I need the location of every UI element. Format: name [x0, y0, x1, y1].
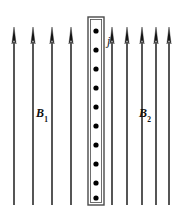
current-sheet	[88, 17, 104, 205]
current-out-of-page-dot-5	[93, 123, 98, 128]
current-out-of-page-dot-2	[93, 66, 98, 71]
label-j: j	[107, 35, 110, 47]
physics-figure: B1 B2 j	[0, 0, 175, 218]
label-b1-base: B	[36, 106, 44, 120]
current-out-of-page-dot-4	[93, 104, 98, 109]
current-out-of-page-dot-6	[93, 142, 98, 147]
current-out-of-page-dot-7	[93, 161, 98, 166]
label-j-base: j	[107, 34, 110, 48]
current-out-of-page-dot-1	[93, 47, 98, 52]
current-out-of-page-dot-3	[93, 85, 98, 90]
current-out-of-page-dot-9	[93, 195, 98, 200]
label-b2-subscript: 2	[147, 115, 151, 124]
current-out-of-page-dot-0	[93, 28, 98, 33]
current-out-of-page-dot-8	[93, 180, 98, 185]
label-b1-subscript: 1	[44, 115, 48, 124]
label-b2: B2	[139, 107, 151, 122]
label-b1: B1	[36, 107, 48, 122]
label-b2-base: B	[139, 106, 147, 120]
